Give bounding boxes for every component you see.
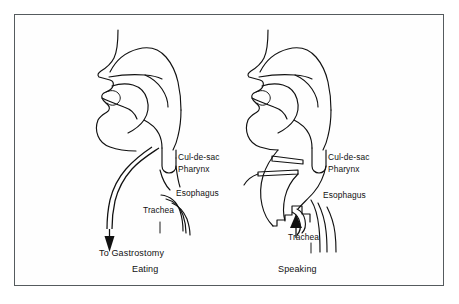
soft-palate-left bbox=[145, 75, 168, 107]
catheter-stem-right bbox=[244, 174, 258, 185]
cul-de-sac-pouch-right bbox=[312, 148, 326, 173]
label-esophagus-right: Esophagus bbox=[323, 190, 366, 200]
figure-root: Cul-de-sac Pharynx Esophagus Trachea To … bbox=[0, 0, 459, 304]
tongue-outline-right bbox=[262, 84, 298, 133]
label-pharynx-right: Pharynx bbox=[328, 164, 360, 174]
label-to-gastrostomy: To Gastrostomy bbox=[99, 248, 164, 258]
nasal-cavity-dome-right bbox=[260, 48, 331, 110]
tracheostomy-stoma-right bbox=[273, 206, 310, 226]
nasal-cavity-dome-left bbox=[110, 48, 181, 110]
caption-eating: Eating bbox=[132, 264, 158, 274]
soft-palate-right bbox=[295, 75, 318, 107]
caption-speaking: Speaking bbox=[278, 264, 317, 274]
tongue-outline-left bbox=[112, 84, 148, 133]
feeding-tube-inner-left bbox=[107, 147, 152, 229]
speech-airflow-arrowhead bbox=[290, 214, 302, 228]
face-profile-outline-left bbox=[97, 30, 137, 151]
label-esophagus-left: Esophagus bbox=[176, 188, 219, 198]
trachea-ring-3-left bbox=[172, 203, 190, 235]
trachea-ring-3-right bbox=[327, 207, 336, 252]
posterior-pharyngeal-wall-left bbox=[173, 110, 181, 150]
cul-de-sac-pouch-left bbox=[162, 148, 176, 173]
hard-palate-right bbox=[259, 75, 312, 79]
label-trachea-left: Trachea bbox=[143, 205, 174, 215]
posterior-pharyngeal-wall-right bbox=[323, 110, 331, 150]
face-profile-outline-right bbox=[247, 30, 279, 150]
anatomy-diagram: Cul-de-sac Pharynx Esophagus Trachea To … bbox=[0, 0, 459, 304]
label-trachea-right: Trachea bbox=[288, 232, 319, 242]
eating-panel-drawing bbox=[97, 30, 191, 252]
label-cul-de-sac-right: Cul-de-sac bbox=[328, 152, 370, 162]
speaking-panel-drawing bbox=[244, 30, 336, 253]
label-pharynx-left: Pharynx bbox=[178, 164, 210, 174]
label-cul-de-sac-left: Cul-de-sac bbox=[178, 152, 220, 162]
eating-panel-labels: Cul-de-sac Pharynx Esophagus Trachea To … bbox=[99, 152, 220, 274]
epiglottis-right bbox=[294, 120, 312, 148]
epiglottis-left bbox=[144, 120, 162, 148]
hard-palate-left bbox=[109, 75, 162, 79]
trachea-ring-1-right bbox=[311, 200, 320, 252]
catheter-tube-upper-right bbox=[272, 156, 303, 164]
